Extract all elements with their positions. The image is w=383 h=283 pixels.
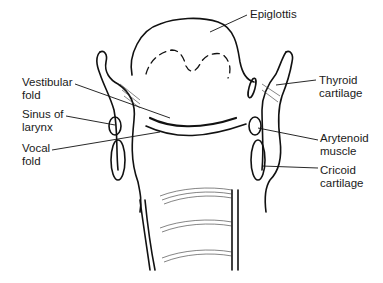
epiglottis-shape	[131, 18, 254, 82]
label-text: cartilage	[320, 177, 363, 190]
label-vestibular-fold: Vestibular fold	[22, 76, 73, 101]
label-epiglottis: Epiglottis	[250, 8, 297, 21]
label-text: Vocal	[22, 142, 50, 155]
leader-lines	[52, 15, 318, 168]
label-text: fold	[22, 155, 50, 168]
label-text: fold	[22, 89, 73, 102]
label-thyroid-cartilage: Thyroid cartilage	[319, 74, 362, 99]
label-text: larynx	[22, 121, 64, 134]
label-cricoid-cartilage: Cricoid cartilage	[320, 164, 363, 189]
label-text: Vestibular	[22, 76, 73, 89]
label-text: Arytenoid	[320, 132, 369, 145]
label-text: Epiglottis	[250, 8, 297, 21]
label-text: muscle	[320, 145, 369, 158]
right-arytenoid	[249, 117, 261, 135]
label-text: Sinus of	[22, 108, 64, 121]
label-vocal-fold: Vocal fold	[22, 142, 50, 167]
label-arytenoid-muscle: Arytenoid muscle	[320, 132, 369, 157]
label-text: cartilage	[319, 87, 362, 100]
label-text: Thyroid	[319, 74, 362, 87]
label-sinus-of-larynx: Sinus of larynx	[22, 108, 64, 133]
label-text: Cricoid	[320, 164, 363, 177]
